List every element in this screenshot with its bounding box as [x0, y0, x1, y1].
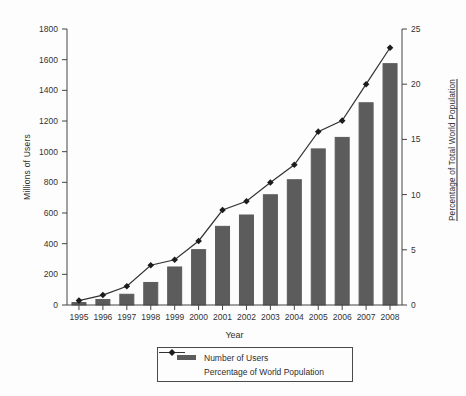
y-right-tick-label: 5 — [411, 245, 416, 255]
bar-1997 — [120, 294, 134, 305]
y-right-tick-label: 15 — [411, 134, 421, 144]
x-tick-label: 1995 — [70, 312, 89, 322]
legend-label-percentage: Percentage of World Population — [204, 367, 324, 377]
y-left-tick-label: 0 — [53, 300, 58, 310]
bar-1998 — [144, 282, 158, 305]
y-right-tick-label: 10 — [411, 190, 421, 200]
x-tick-label: 2002 — [237, 312, 256, 322]
y-left-tick-label: 1800 — [39, 24, 58, 34]
x-tick-label: 1997 — [117, 312, 136, 322]
y-left-tick-label: 800 — [44, 177, 58, 187]
legend-item-percentage: Percentage of World Population — [168, 366, 352, 378]
y-left-tick-label: 200 — [44, 269, 58, 279]
bar-2001 — [216, 226, 230, 305]
y-right-tick-label: 20 — [411, 79, 421, 89]
y-left-tick-label: 1000 — [39, 147, 58, 157]
x-tick-label: 2006 — [333, 312, 352, 322]
x-tick-label: 2003 — [261, 312, 280, 322]
y-left-tick-label: 1600 — [39, 55, 58, 65]
bar-2002 — [239, 215, 253, 305]
diamond-marker-2006 — [339, 117, 346, 124]
bar-2005 — [311, 149, 325, 305]
y-left-tick-label: 600 — [44, 208, 58, 218]
bar-1996 — [96, 299, 110, 305]
diamond-marker-2008 — [387, 44, 394, 51]
legend-item-number-of-users: Number of Users — [168, 352, 352, 364]
x-tick-label: 1998 — [141, 312, 160, 322]
diamond-marker-1996 — [100, 292, 107, 299]
y-left-tick-label: 1400 — [39, 85, 58, 95]
bar-2008 — [383, 64, 397, 305]
x-tick-label: 2000 — [189, 312, 208, 322]
x-tick-label: 1996 — [93, 312, 112, 322]
y-axis-label-right: Percentage of Total World Population — [448, 79, 457, 221]
x-tick-label: 2005 — [309, 312, 328, 322]
y-right-tick-label: 0 — [411, 300, 416, 310]
bar-2007 — [359, 103, 373, 305]
legend: Number of Users Percentage of World Popu… — [157, 347, 353, 382]
diamond-marker-2007 — [363, 81, 370, 88]
y-left-tick-label: 400 — [44, 239, 58, 249]
bar-2004 — [287, 180, 301, 305]
legend-label-users: Number of Users — [204, 353, 268, 363]
y-left-tick-label: 1200 — [39, 116, 58, 126]
bar-2006 — [335, 137, 349, 305]
bar-2003 — [263, 195, 277, 305]
x-tick-label: 2008 — [381, 312, 400, 322]
x-tick-label: 2007 — [357, 312, 376, 322]
chart-canvas: 0200400600800100012001400160018000510152… — [0, 0, 466, 396]
x-tick-label: 2004 — [285, 312, 304, 322]
x-tick-label: 2001 — [213, 312, 232, 322]
x-axis-label: Year — [67, 330, 402, 340]
bar-1999 — [168, 267, 182, 305]
y-right-tick-label: 25 — [411, 24, 421, 34]
y-axis-label-left: Millions of Users — [22, 134, 32, 200]
bar-2000 — [192, 250, 206, 305]
x-tick-label: 1999 — [165, 312, 184, 322]
